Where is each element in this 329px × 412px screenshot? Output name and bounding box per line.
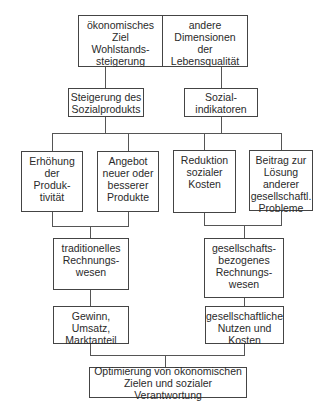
box-label: Angebot neuer oder besserer Produkte [103, 155, 154, 203]
box-traditional-accounting: traditionelles Rechnungs- wesen [53, 238, 129, 290]
box-new-products: Angebot neuer oder besserer Produkte [97, 151, 159, 212]
connector [90, 289, 91, 306]
connector [204, 212, 205, 225]
box-label: Steigerung des Sozialprodukts [71, 91, 142, 115]
box-label: ökonomisches Ziel Wohlstands- steigerung [87, 19, 154, 67]
box-optimization: Optimierung von ökonomischen Zielen und … [89, 367, 247, 398]
box-label: Erhöhung der Produk- tivität [29, 155, 75, 203]
connector [221, 116, 222, 133]
connector [204, 225, 282, 226]
box-social-accounting: gesellschafts- bezogenes Rechnungs- wese… [204, 238, 284, 298]
connector [52, 133, 282, 134]
connector [244, 225, 245, 238]
connector [128, 133, 129, 151]
box-profit-revenue-share: Gewinn, Umsatz, Marktanteil [53, 306, 129, 344]
box-social-benefits-costs: gesellschaftliche Nutzen und Kosten [205, 306, 284, 344]
connector [105, 116, 106, 133]
box-label: Reduktion sozialer Kosten [181, 154, 228, 190]
box-label: Beitrag zur Lösung anderer gesellschaftl… [251, 154, 312, 214]
connector [128, 211, 129, 226]
connector [90, 226, 91, 238]
box-social-product-growth: Steigerung des Sozialprodukts [68, 88, 144, 117]
box-label: Sozial- indikatoren [195, 91, 246, 115]
connector [281, 133, 282, 150]
box-label: gesellschaftliche Nutzen und Kosten [206, 310, 283, 346]
connector [52, 133, 53, 151]
box-social-indicators: Sozial- indikatoren [184, 88, 258, 117]
box-productivity: Erhöhung der Produk- tivität [21, 151, 83, 212]
box-label: andere Dimensionen der Lebensqualität [171, 19, 239, 67]
connector [244, 297, 245, 306]
box-social-cost-reduction: Reduktion sozialer Kosten [173, 150, 236, 213]
connector [52, 211, 53, 226]
box-label: gesellschafts- bezogenes Rechnungs- wese… [212, 242, 276, 290]
connector [90, 355, 245, 356]
connector [204, 133, 205, 150]
connector [105, 67, 106, 88]
connector [221, 67, 222, 88]
box-social-problems: Beitrag zur Lösung anderer gesellschaftl… [249, 150, 313, 211]
top-box-economic-goal: ökonomisches Ziel Wohlstands- steigerung [78, 15, 163, 67]
box-label: Optimierung von ökonomischen Zielen und … [90, 365, 246, 401]
box-label: Gewinn, Umsatz, Marktanteil [65, 310, 116, 346]
box-label: traditionelles Rechnungs- wesen [62, 242, 121, 278]
top-box-quality-of-life: andere Dimensionen der Lebensqualität [162, 15, 248, 67]
